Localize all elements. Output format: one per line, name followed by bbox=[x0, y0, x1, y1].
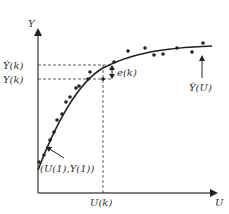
curve-label: Ŷ(U) bbox=[189, 82, 212, 93]
error-arrow-down-icon bbox=[109, 74, 115, 79]
error-arrow-up-icon bbox=[109, 65, 115, 70]
y-hat-k-label: Ŷ(k) bbox=[3, 60, 24, 71]
y-k-label: Y(k) bbox=[3, 74, 24, 85]
curve-fit-diagram: Y U Ŷ(k) Y(k) U(k) e(k) Ŷ(U) bbox=[0, 0, 229, 214]
first-point-label: (U(1),Y(1)) bbox=[40, 163, 94, 174]
first-point-pointer bbox=[48, 148, 64, 158]
x-axis-label: U bbox=[215, 197, 224, 208]
y-axis-label: Y bbox=[28, 18, 36, 29]
error-label: e(k) bbox=[117, 67, 137, 78]
u-k-label: U(k) bbox=[90, 197, 112, 208]
